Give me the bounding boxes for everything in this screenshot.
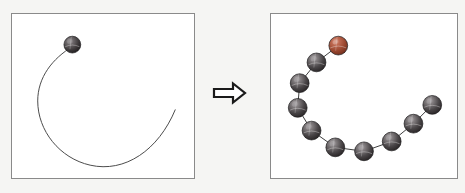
- terminal-bead-sphere: [64, 36, 81, 53]
- bead-7-sphere: [355, 142, 374, 161]
- source-curve-canvas: [12, 14, 194, 178]
- coarse-grained-chain-panel: [270, 13, 458, 179]
- bead-6-sphere: [326, 138, 345, 157]
- source-curve-group: [38, 47, 175, 167]
- head-bead-sphere: [329, 36, 348, 55]
- bead-3-sphere: [290, 74, 309, 93]
- bead-2-sphere: [307, 53, 326, 72]
- open-spiral-curve: [38, 47, 175, 167]
- transformation-arrow: [212, 80, 248, 106]
- source-bead-group: [64, 36, 81, 53]
- figure-root: Coarse-grained chain reconstruction from…: [0, 0, 465, 193]
- transformation-arrow-icon: [212, 80, 248, 106]
- bead-8-sphere: [382, 132, 401, 151]
- tail-bead-sphere: [423, 96, 442, 115]
- figure-title: Coarse-grained chain reconstruction from…: [0, 0, 1, 1]
- chain-canvas: [271, 14, 457, 178]
- bead-5-sphere: [302, 121, 321, 140]
- bead-9-sphere: [404, 114, 423, 133]
- bead-4-sphere: [288, 98, 307, 117]
- bead-chain-beads: [288, 36, 441, 160]
- source-curve-panel: [11, 13, 195, 179]
